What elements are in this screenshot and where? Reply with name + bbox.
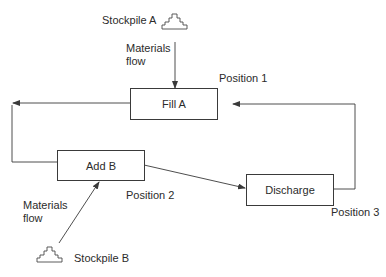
fill-a-box: Fill A bbox=[130, 88, 218, 120]
fill-to-add-return-line bbox=[12, 105, 57, 162]
stockpile-a-label: Stockpile A bbox=[102, 14, 156, 27]
discharge-label: Discharge bbox=[265, 184, 315, 196]
process-cycle-diagram: Fill A Add B Discharge Stockpile A Mater… bbox=[0, 0, 386, 277]
fill-a-label: Fill A bbox=[162, 98, 186, 110]
add-b-box: Add B bbox=[57, 150, 145, 181]
add-to-discharge-arrow bbox=[144, 165, 245, 188]
position-3-label: Position 3 bbox=[331, 206, 379, 219]
materials-flow-a-label-line2: flow bbox=[126, 55, 146, 68]
add-b-label: Add B bbox=[86, 160, 116, 172]
stockpile-a-icon bbox=[162, 14, 187, 29]
materials-flow-a-label-line1: Materials bbox=[126, 42, 171, 55]
discharge-box: Discharge bbox=[246, 174, 334, 206]
position-2-label: Position 2 bbox=[126, 189, 174, 202]
connector-layer bbox=[0, 0, 386, 277]
stockpile-b-icon bbox=[37, 247, 62, 262]
position-1-label: Position 1 bbox=[219, 72, 267, 85]
materials-flow-b-label-line1: Materials bbox=[23, 199, 68, 212]
materials-flow-b-arrow bbox=[59, 182, 99, 243]
stockpile-b-label: Stockpile B bbox=[74, 252, 129, 265]
materials-flow-b-label-line2: flow bbox=[23, 212, 43, 225]
